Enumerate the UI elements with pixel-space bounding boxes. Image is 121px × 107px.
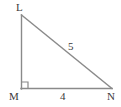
side-length-label-base: 4 [60,91,66,102]
right-angle-marker-icon [22,82,29,89]
geometry-figure: L M N 5 4 [0,0,121,107]
vertex-label-L: L [16,2,23,13]
side-length-label-hypotenuse: 5 [68,41,74,52]
vertex-label-N: N [107,91,115,102]
vertex-label-M: M [9,91,19,102]
triangle-side-hypotenuse-LN [22,15,113,89]
